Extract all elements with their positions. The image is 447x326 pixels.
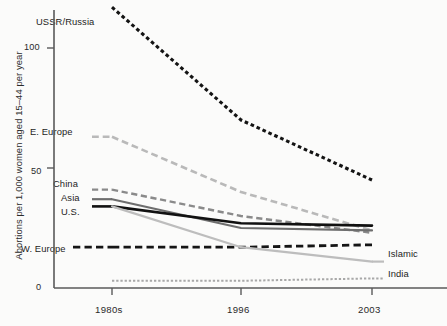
series-line-islamic xyxy=(112,206,372,261)
series-line-ussr-russia xyxy=(112,7,372,180)
axes-group xyxy=(47,10,447,295)
series-line-india xyxy=(112,278,372,280)
plot-area xyxy=(0,0,447,326)
abortion-rate-line-chart: Abortions per 1,000 women aged 15–44 per… xyxy=(0,0,447,326)
series-lines-group xyxy=(73,7,384,281)
